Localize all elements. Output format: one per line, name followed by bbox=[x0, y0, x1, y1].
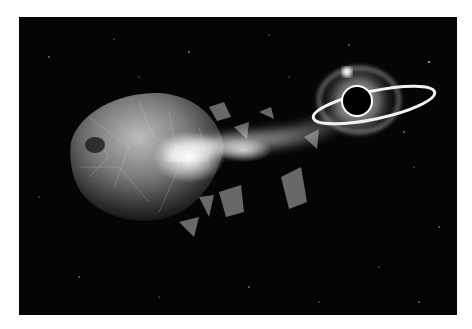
stream-glow bbox=[216, 138, 272, 162]
impact-flash bbox=[153, 131, 225, 183]
space-illustration bbox=[19, 17, 457, 315]
artwork-frame bbox=[19, 17, 457, 315]
black-hole bbox=[310, 59, 437, 143]
